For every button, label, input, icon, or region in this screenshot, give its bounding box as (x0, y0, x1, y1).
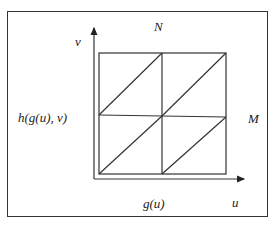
diagonal-bottom-left (99, 116, 162, 174)
label-y-axis: v (75, 35, 81, 48)
diagonal-bottom-right (162, 117, 226, 174)
label-right: M (248, 112, 259, 125)
label-left: h(g(u), v) (18, 111, 67, 124)
label-x-axis: u (232, 196, 239, 209)
label-bottom: g(u) (143, 197, 165, 210)
diagonal-top-left (99, 53, 162, 115)
label-top: N (154, 20, 163, 33)
diagonal-top-right (162, 53, 226, 116)
